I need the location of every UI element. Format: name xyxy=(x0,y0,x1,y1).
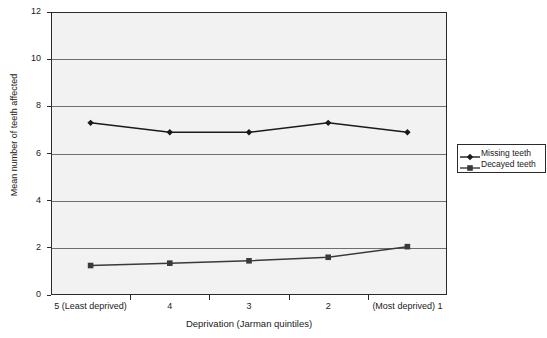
y-tick-mark xyxy=(47,59,51,60)
legend-label-missing-teeth: Missing teeth xyxy=(480,148,531,158)
y-tick-label: 6 xyxy=(19,149,41,158)
chart-legend: Missing teeth Decayed teeth xyxy=(457,144,546,173)
y-tick-mark xyxy=(47,295,51,296)
legend-marker-square-icon xyxy=(460,159,480,169)
y-tick-mark xyxy=(47,247,51,248)
x-tick-mark xyxy=(130,295,131,300)
gridline xyxy=(52,106,446,107)
x-tick-mark xyxy=(289,295,290,300)
x-tick-label: 3 xyxy=(246,301,251,311)
y-tick-label: 2 xyxy=(19,243,41,252)
y-axis-title: Mean number of teeth affected xyxy=(9,40,19,230)
y-tick-mark xyxy=(47,106,51,107)
x-tick-label: 5 (Least deprived) xyxy=(54,301,127,311)
plot-area xyxy=(51,12,447,295)
y-tick-label: 0 xyxy=(19,290,41,299)
chart-figure: 024681012 Mean number of teeth affected … xyxy=(0,0,547,338)
x-tick-label: (Most deprived) 1 xyxy=(372,301,442,311)
gridline xyxy=(52,248,446,249)
y-tick-mark xyxy=(47,200,51,201)
legend-item-decayed-teeth: Decayed teeth xyxy=(460,159,543,169)
legend-marker-diamond-icon xyxy=(460,148,480,158)
y-tick-label: 10 xyxy=(19,54,41,63)
gridline xyxy=(52,59,446,60)
legend-item-missing-teeth: Missing teeth xyxy=(460,148,543,158)
x-tick-mark xyxy=(368,295,369,300)
y-tick-label: 4 xyxy=(19,196,41,205)
x-tick-label: 2 xyxy=(326,301,331,311)
y-tick-mark xyxy=(47,12,51,13)
x-axis-title: Deprivation (Jarman quintiles) xyxy=(51,318,447,329)
gridline xyxy=(52,201,446,202)
x-tick-label: 4 xyxy=(167,301,172,311)
y-tick-label: 8 xyxy=(19,101,41,110)
legend-label-decayed-teeth: Decayed teeth xyxy=(480,159,536,169)
gridline xyxy=(52,154,446,155)
x-tick-mark xyxy=(209,295,210,300)
y-tick-mark xyxy=(47,153,51,154)
y-tick-label: 12 xyxy=(19,7,41,16)
